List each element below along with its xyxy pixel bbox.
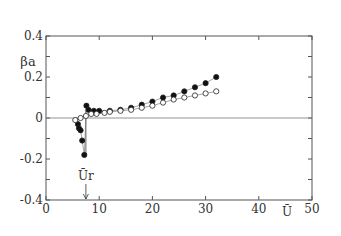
y-tick-label: 0 <box>35 111 43 125</box>
y-axis-label: βa <box>20 54 36 69</box>
y-tick-label: -0.4 <box>20 193 44 207</box>
chart: -0.4-0.200.20.401020304050βaŪŪr <box>0 0 341 236</box>
labels: -0.4-0.200.20.401020304050βaŪŪr <box>20 29 320 219</box>
open-marker <box>192 93 197 98</box>
open-marker <box>73 117 78 122</box>
filled-marker <box>182 89 187 94</box>
open-marker <box>129 107 134 112</box>
open-marker <box>78 115 83 120</box>
open-marker <box>94 111 99 116</box>
filled-marker <box>82 152 87 157</box>
filled-marker <box>192 85 197 90</box>
x-axis-label: Ū <box>282 204 292 219</box>
x-tick-label: 30 <box>198 202 213 216</box>
open-marker <box>150 103 155 108</box>
open-marker <box>139 105 144 110</box>
open-marker <box>214 89 219 94</box>
open-marker <box>203 91 208 96</box>
open-marker <box>102 110 107 115</box>
x-tick-label: 40 <box>251 202 266 216</box>
open-marker <box>107 109 112 114</box>
filled-marker <box>214 74 219 79</box>
x-tick-label: 50 <box>304 202 319 216</box>
open-marker <box>160 100 165 105</box>
x-tick-label: 20 <box>145 202 160 216</box>
plot-area <box>73 74 219 157</box>
x-tick-label: 10 <box>92 202 107 216</box>
y-tick-label: -0.2 <box>20 152 43 166</box>
open-marker <box>118 108 123 113</box>
filled-marker <box>203 81 208 86</box>
filled-marker <box>160 95 165 100</box>
open-marker <box>83 113 88 118</box>
x-tick-label: 0 <box>42 202 50 216</box>
open-marker <box>171 97 176 102</box>
filled-marker <box>80 138 85 143</box>
y-tick-label: 0.2 <box>24 70 43 84</box>
open-marker <box>182 95 187 100</box>
ur-annotation-label: Ūr <box>78 168 94 183</box>
y-tick-label: 0.4 <box>24 29 43 43</box>
filled-marker <box>78 128 83 133</box>
open-marker <box>89 111 94 116</box>
